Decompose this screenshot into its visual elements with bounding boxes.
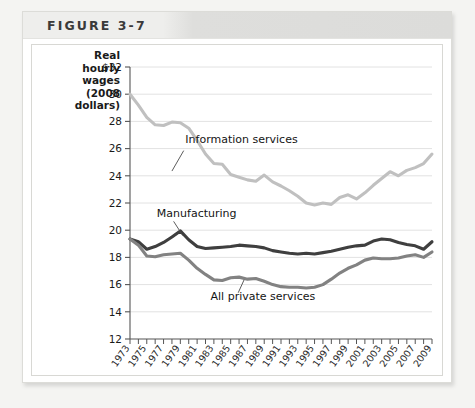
y-axis-tick-label: 12 [109, 333, 122, 345]
series-line [130, 231, 432, 254]
figure-card: FIGURE 3-7 Real hourly wages (2008 dolla… [22, 11, 452, 383]
x-axis-tick-label: 2009 [411, 343, 434, 369]
series-line [130, 239, 432, 288]
y-axis-tick-label: 20 [109, 224, 122, 236]
series-label: All private services [211, 290, 316, 303]
y-axis-tick-label: 22 [109, 197, 122, 209]
chart-panel: Real hourly wages (2008 dollars) 1214161… [31, 44, 443, 376]
y-axis-tick-label: 30 [109, 88, 122, 100]
figure-header-bar: FIGURE 3-7 [23, 12, 451, 39]
page-root: FIGURE 3-7 Real hourly wages (2008 dolla… [0, 0, 475, 408]
y-axis-tick-label: 18 [109, 251, 122, 263]
series-line [130, 94, 432, 205]
y-axis-tick-label: $32 [102, 61, 122, 73]
figure-title: FIGURE 3-7 [47, 18, 147, 33]
series-label: Information services [185, 133, 298, 146]
y-axis-tick-label: 16 [109, 278, 123, 290]
y-axis-tick-label: 26 [109, 142, 123, 154]
line-chart: 12141618202224262830$3219731975197719791… [32, 45, 442, 375]
y-axis-tick-label: 24 [109, 170, 123, 182]
y-axis-tick-label: 28 [109, 115, 122, 127]
series-label: Manufacturing [157, 207, 237, 220]
series-label-leader [172, 151, 184, 171]
y-axis-tick-label: 14 [109, 306, 123, 318]
